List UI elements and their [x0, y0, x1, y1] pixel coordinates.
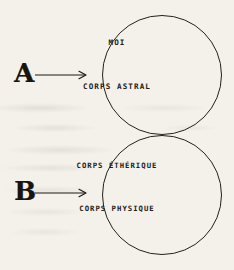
- upper-circle-label-corps-astral: CORPS ASTRAL: [0, 82, 234, 91]
- diagram-page: A B MOI CORPS ASTRAL CORPS ÉTHÉRIQUE COR…: [0, 0, 234, 270]
- marker-label-b: B: [14, 178, 36, 204]
- upper-circle: [102, 15, 222, 135]
- upper-circle-label-moi: MOI: [0, 38, 234, 47]
- lower-circle-label-corps-physique: CORPS PHYSIQUE: [0, 204, 234, 213]
- lower-circle-label-corps-etherique: CORPS ÉTHÉRIQUE: [0, 161, 234, 170]
- arrow-right-icon-a: [35, 70, 91, 80]
- arrow-right-icon-b: [35, 188, 91, 198]
- lower-circle: [102, 135, 222, 255]
